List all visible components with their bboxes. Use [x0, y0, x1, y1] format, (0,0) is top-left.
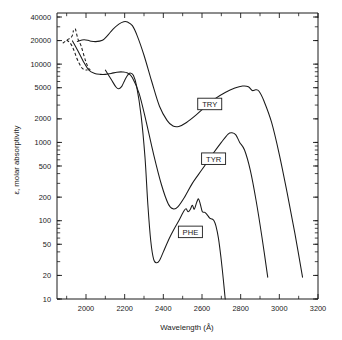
- y-tick-label: 40000: [30, 13, 51, 22]
- curve-label-text: PHE: [183, 228, 199, 237]
- plot-frame: [57, 13, 318, 299]
- y-tick-label: 5000: [35, 83, 51, 92]
- x-tick-label: 3200: [310, 304, 326, 313]
- y-tick-label: 50: [43, 240, 51, 249]
- x-tick-label: 2000: [78, 304, 94, 313]
- y-tick-label: 20000: [30, 36, 51, 45]
- y-tick-label: 10000: [30, 60, 51, 69]
- x-tick-label: 2600: [194, 304, 210, 313]
- curve-label-phe: PHE: [178, 226, 202, 238]
- y-tick-label: 500: [39, 162, 51, 171]
- chart-canvas: 2000220024002600280030003200 10205010020…: [0, 0, 342, 340]
- x-axis-ticks: [67, 13, 318, 299]
- absorption-spectrum-figure: 2000220024002600280030003200 10205010020…: [0, 0, 342, 340]
- x-axis-title: Wavelength (Å): [160, 323, 214, 332]
- x-tick-label: 2400: [155, 304, 171, 313]
- x-axis-tick-labels: 2000220024002600280030003200: [78, 304, 326, 313]
- y-tick-label: 20: [43, 271, 51, 280]
- spectrum-curve-tyr-extrapolated-lower: [67, 40, 88, 70]
- y-tick-label: 1000: [35, 138, 51, 147]
- x-tick-label: 2200: [116, 304, 132, 313]
- y-tick-label: 2000: [35, 114, 51, 123]
- spectrum-curve-tyr: [72, 41, 267, 277]
- y-axis-ticks: [57, 17, 318, 299]
- y-tick-label: 10: [43, 295, 51, 304]
- spectral-curves: [63, 22, 303, 299]
- y-axis-tick-labels: 1020501002005001000200050001000020000400…: [30, 13, 51, 304]
- curve-label-text: TRY: [202, 100, 217, 109]
- x-tick-label: 3000: [271, 304, 287, 313]
- curve-label-try: TRY: [198, 98, 222, 110]
- y-tick-label: 100: [39, 216, 51, 225]
- x-tick-label: 2800: [232, 304, 248, 313]
- curve-labels: TRYTYRPHE: [178, 98, 225, 237]
- y-axis-title: ε, molar absorptivity: [12, 125, 21, 194]
- spectrum-curve-try: [77, 22, 302, 278]
- curve-label-tyr: TYR: [202, 153, 226, 165]
- y-tick-label: 200: [39, 193, 51, 202]
- curve-label-text: TYR: [206, 155, 222, 164]
